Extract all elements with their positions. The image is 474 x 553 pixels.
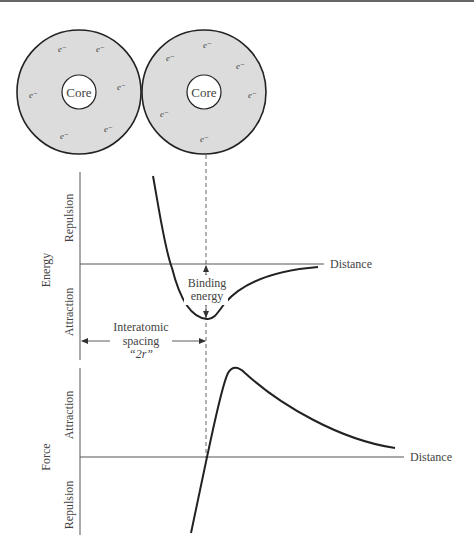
electron: e⁻ [248,90,257,100]
spacing-label-3: “2r” [129,347,153,361]
attraction-label: Attraction [62,288,76,337]
energy-ylabel: Energy [39,253,53,287]
force-xlabel: Distance [410,450,452,464]
top-rule [0,0,474,2]
energy-curve [153,176,318,319]
electron: e⁻ [58,44,67,54]
force-repulsion-label: Repulsion [62,481,76,530]
binding-label-1: Binding [188,276,227,290]
energy-xlabel: Distance [330,257,372,271]
electron: e⁻ [96,44,105,54]
electron: e⁻ [200,134,209,144]
core-label: Core [66,85,92,100]
core-label: Core [191,85,217,100]
interatomic-diagram: Core e⁻ e⁻ e⁻ e⁻ e⁻ e⁻ Core e⁻ e⁻ e⁻ e⁻ … [0,0,474,553]
energy-plot: Distance Energy Repulsion Attraction Bin… [39,172,372,364]
repulsion-label: Repulsion [62,194,76,243]
electron: e⁻ [117,82,126,92]
atom-left: Core e⁻ e⁻ e⁻ e⁻ e⁻ e⁻ [17,30,141,154]
spacing-label-1: Interatomic [113,320,168,334]
electron: e⁻ [60,131,69,141]
force-ylabel: Force [39,443,53,470]
electron: e⁻ [203,40,212,50]
atom-right: Core e⁻ e⁻ e⁻ e⁻ e⁻ e⁻ [142,30,266,154]
electron: e⁻ [29,90,38,100]
electron: e⁻ [236,61,245,71]
spacing-label-2: spacing [123,334,160,348]
force-attraction-label: Attraction [62,391,76,440]
force-plot: Distance Force Attraction Repulsion [39,368,452,535]
electron: e⁻ [104,124,113,134]
electron: e⁻ [160,109,169,119]
binding-label-2: energy [191,289,223,303]
force-curve [191,368,395,533]
electron: e⁻ [166,53,175,63]
